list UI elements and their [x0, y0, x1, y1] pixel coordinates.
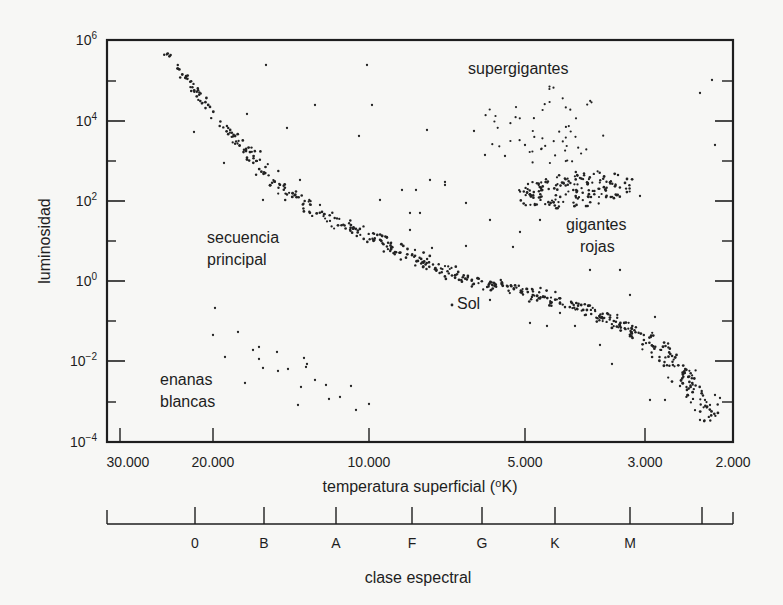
y-tick-label: 102 — [76, 191, 98, 209]
region-label: gigantes — [566, 216, 627, 233]
x-tick-label: 5.000 — [507, 454, 542, 470]
y-axis-title: luminosidad — [36, 198, 53, 283]
region-label: enanas — [160, 371, 213, 388]
x-tick-label: 30.000 — [107, 454, 150, 470]
x-tick-label: 3.000 — [627, 454, 662, 470]
spectral-class-label: F — [408, 535, 417, 551]
x-tick-label: 10.000 — [348, 454, 391, 470]
spectral-class-label: A — [331, 535, 341, 551]
spectral-class-label: K — [550, 535, 560, 551]
spectral-class-label: G — [477, 535, 488, 551]
y-tick-label: 10−2 — [70, 351, 97, 369]
y-tick-label: 104 — [76, 111, 98, 129]
spectral-class-label: M — [624, 535, 636, 551]
x-tick-label: 20.000 — [192, 454, 235, 470]
x-tick-label: 2.000 — [715, 454, 750, 470]
spectral-class-label: B — [259, 535, 268, 551]
x-axis-title: temperatura superficial (⁰K) — [323, 478, 518, 495]
region-label: blancas — [160, 393, 215, 410]
region-label: principal — [207, 251, 267, 268]
y-tick-label: 10−4 — [70, 432, 97, 450]
region-label: supergigantes — [468, 60, 569, 77]
region-label: rojas — [580, 238, 615, 255]
spectral-axis-title: clase espectral — [365, 569, 472, 586]
region-label: secuencia — [207, 229, 279, 246]
spectral-class-label: 0 — [191, 535, 199, 551]
y-tick-label: 106 — [76, 30, 98, 48]
hr-diagram: 10610410210010−210−4 30.00020.00010.0005… — [0, 0, 783, 605]
region-label: Sol — [457, 295, 480, 312]
region-labels: supergigantessecuenciaprincipalgigantesr… — [160, 60, 627, 410]
spectral-class-axis: 0BAFGKM — [107, 507, 733, 551]
x-axis: 30.00020.00010.0005.0003.0002.000 — [107, 428, 751, 470]
y-tick-label: 100 — [76, 271, 98, 289]
